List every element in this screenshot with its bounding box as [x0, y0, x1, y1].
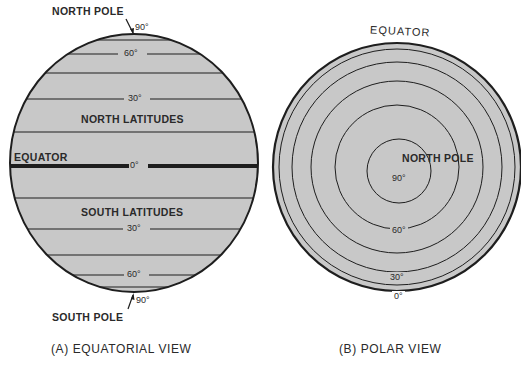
equator-label-left: EQUATOR	[14, 151, 68, 163]
equatorial-view-globe	[0, 19, 300, 309]
equatorial-view-caption: (A) EQUATORIAL VIEW	[51, 342, 192, 356]
north-pole-label: NORTH POLE	[52, 5, 124, 17]
ring-0-degree-label: 0°	[392, 291, 405, 301]
north-60-degree-label: 60°	[124, 48, 138, 58]
south-pole-label: SOUTH POLE	[52, 311, 123, 323]
polar-north-pole-label: NORTH POLE	[402, 152, 474, 164]
south-latitudes-label: SOUTH LATITUDES	[81, 206, 183, 218]
north-90-degree-label: 90°	[135, 22, 149, 32]
center-90-degree-label: 90°	[392, 173, 406, 183]
ring-30-degree-label: 30°	[388, 272, 406, 282]
south-60-degree-label: 60°	[127, 269, 141, 279]
south-30-degree-label: 30°	[127, 223, 141, 233]
south-90-degree-label: 90°	[136, 295, 150, 305]
polar-view-caption: (B) POLAR VIEW	[339, 342, 441, 356]
north-latitudes-label: NORTH LATITUDES	[81, 113, 184, 125]
north-30-degree-label: 30°	[128, 93, 142, 103]
polar-view-globe	[273, 43, 521, 291]
ring-60-degree-label: 60°	[390, 225, 408, 235]
equator-degree-label: 0°	[130, 160, 139, 170]
